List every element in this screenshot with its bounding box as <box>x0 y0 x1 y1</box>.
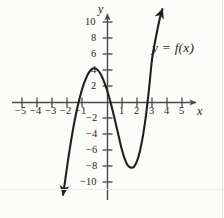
x-tick-label--4: −4 <box>30 106 41 117</box>
y-tick-label-4: 4 <box>91 65 96 76</box>
y-tick-label--6: −6 <box>86 145 97 156</box>
curve-equation-label: y = f(x) <box>152 40 194 56</box>
x-tick-label-2: 2 <box>134 106 139 117</box>
y-tick-label--2: −2 <box>86 113 97 124</box>
page-edge-line <box>222 0 223 218</box>
x-tick-label-4: 4 <box>164 106 169 117</box>
y-tick-label--8: −8 <box>86 161 97 172</box>
y-axis-label: y <box>98 3 103 15</box>
x-tick-label--3: −3 <box>45 106 56 117</box>
x-tick-label-3: 3 <box>149 106 154 117</box>
scan-artifact-line <box>0 189 224 190</box>
function-graph-figure: −5 −4 −3 −2 −1 1 2 3 4 5 10 8 6 4 2 −2 −… <box>0 0 224 218</box>
y-tick-label-10: 10 <box>85 17 96 28</box>
x-tick-label-5: 5 <box>179 106 184 117</box>
x-axis-label: x <box>197 105 202 117</box>
x-tick-label--1: −1 <box>75 106 86 117</box>
y-tick-label-8: 8 <box>91 33 96 44</box>
y-tick-label-6: 6 <box>91 49 96 60</box>
y-tick-label--10: −10 <box>80 177 96 188</box>
x-tick-label--5: −5 <box>15 106 26 117</box>
x-tick-label-1: 1 <box>119 106 124 117</box>
x-tick-label--2: −2 <box>60 106 71 117</box>
y-tick-label-2: 2 <box>91 81 96 92</box>
y-tick-label--4: −4 <box>86 129 97 140</box>
